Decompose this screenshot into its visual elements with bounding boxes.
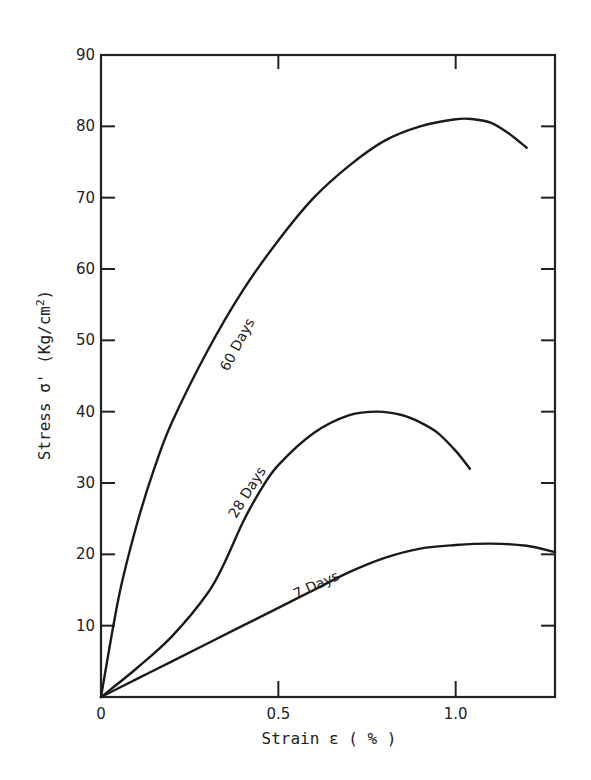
y-axis-title: Stress σ' (Kg/cm2) [34,290,54,460]
stress-strain-chart: 10203040506070809000.51.0 60 Days 28 Day… [0,0,591,780]
y-axis-title-sup: 2 [34,299,47,306]
tick-labels: 10203040506070809000.51.0 [76,46,468,723]
curves [101,119,555,697]
x-axis-title: Strain ε ( % ) [262,729,397,748]
y-tick-label: 80 [76,117,95,135]
y-tick-label: 40 [76,403,95,421]
y-tick-label: 90 [76,46,95,64]
y-tick-label: 60 [76,260,95,278]
y-tick-label: 30 [76,474,95,492]
y-tick-label: 70 [76,189,95,207]
x-tick-label: 1.0 [444,705,468,723]
y-tick-label: 50 [76,331,95,349]
y-axis-title-end: ) [35,290,54,300]
curve-28-days [101,412,470,697]
curve-7-days [101,544,555,697]
axis-ticks [101,55,555,697]
curve-60-days [101,119,527,697]
y-tick-label: 10 [76,617,95,635]
x-tick-label: 0 [96,705,106,723]
label-7-days: 7 Days [291,567,342,601]
x-tick-label: 0.5 [266,705,290,723]
y-axis-title-main: Stress σ' (Kg/cm [35,306,54,460]
plot-frame [101,55,555,697]
y-tick-label: 20 [76,545,95,563]
plot-border [101,55,555,697]
